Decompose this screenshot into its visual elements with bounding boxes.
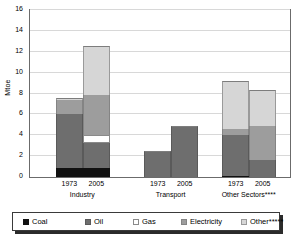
bar-segment [56, 100, 83, 114]
bar-segment [222, 135, 249, 175]
plot-inner [30, 10, 290, 177]
bar-segment [144, 151, 171, 177]
legend-item[interactable]: Coal [23, 217, 47, 226]
bar-segment [249, 160, 276, 177]
gridline [30, 30, 290, 31]
plot-area [29, 9, 291, 178]
bar-segment [83, 46, 110, 95]
y-axis-tick-label: 14 [5, 26, 23, 33]
legend-label: Gas [142, 217, 156, 226]
y-axis-tick-labels: 1614121086420 [5, 9, 25, 178]
gridline [30, 9, 290, 10]
bar-segment [222, 129, 249, 135]
x-axis-year-label: 2005 [249, 180, 277, 187]
x-axis-year-label: 2005 [171, 180, 199, 187]
x-axis-year-label: 1973 [144, 180, 172, 187]
bar-segment [56, 114, 83, 167]
legend-item[interactable]: Oil [85, 217, 103, 226]
y-axis-tick-label: 10 [5, 68, 23, 75]
legend-swatch-oil-icon [85, 219, 91, 225]
bar-segment [171, 126, 198, 177]
x-axis-year-label: 1973 [55, 180, 83, 187]
bar-segment [249, 90, 276, 126]
legend-swatch-elec-icon [181, 219, 187, 225]
bar [83, 46, 110, 178]
bar-segment [56, 168, 83, 177]
bar-segment [222, 81, 249, 129]
legend-swatch-coal-icon [23, 219, 29, 225]
stacked-bar-chart: Mtoe 1614121086420 19732005Industry19732… [0, 0, 297, 241]
x-axis-year-label: 2005 [82, 180, 110, 187]
bar [249, 90, 276, 177]
bar-segment [83, 95, 110, 136]
y-axis-tick-label: 8 [5, 89, 23, 96]
gridline [30, 72, 290, 73]
y-axis-tick-label: 4 [5, 130, 23, 137]
x-axis-labels: 19732005Industry19732005Transport1973200… [29, 180, 291, 206]
y-axis-tick-label: 16 [5, 5, 23, 12]
bar-segment [83, 143, 110, 168]
bar-segment [83, 135, 110, 142]
x-axis-year-label: 1973 [222, 180, 250, 187]
bar [171, 126, 198, 177]
y-axis-tick-label: 6 [5, 109, 23, 116]
chart-legend: CoalOilGasElectricityOther***** [12, 212, 280, 231]
legend-item[interactable]: Other***** [241, 217, 283, 226]
legend-label: Oil [94, 217, 103, 226]
gridline [30, 51, 290, 52]
bar [56, 98, 83, 177]
legend-swatch-other-icon [241, 219, 247, 225]
y-axis-tick-label: 2 [5, 151, 23, 158]
bar-segment [83, 168, 110, 177]
y-axis-tick-label: 12 [5, 47, 23, 54]
bar [222, 81, 249, 177]
bar-segment [56, 98, 83, 101]
legend-label: Electricity [190, 217, 222, 226]
x-axis-group-label: Other Sectors**** [192, 191, 297, 198]
legend-swatch-gas-icon [133, 219, 139, 225]
bar-segment [222, 176, 249, 177]
y-axis-tick-label: 0 [5, 172, 23, 179]
legend-item[interactable]: Gas [133, 217, 156, 226]
bar-segment [249, 126, 276, 160]
legend-item[interactable]: Electricity [181, 217, 222, 226]
bar [144, 151, 171, 177]
legend-label: Other***** [250, 217, 283, 226]
legend-label: Coal [32, 217, 47, 226]
